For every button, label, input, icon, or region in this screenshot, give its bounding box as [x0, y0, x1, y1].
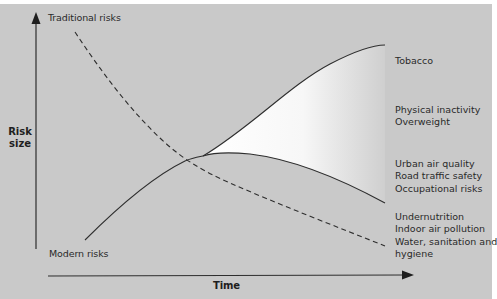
y-axis-label: Risk size — [4, 126, 36, 150]
label-road-traffic-safety: Road traffic safety — [395, 170, 482, 182]
label-physical-inactivity: Physical inactivity — [395, 104, 480, 116]
y-axis-arrow-icon — [32, 12, 41, 24]
label-urban-air-quality: Urban air quality — [395, 158, 482, 170]
label-group-tobacco: Tobacco — [395, 55, 433, 67]
x-axis-label: Time — [213, 280, 240, 292]
label-group-urban: Urban air quality Road traffic safety Oc… — [395, 158, 482, 195]
modern-risks-curve — [85, 156, 203, 240]
label-occupational-risks: Occupational risks — [395, 183, 482, 195]
label-overweight: Overweight — [395, 116, 480, 128]
label-tobacco: Tobacco — [395, 55, 433, 67]
x-axis-arrow-icon — [402, 271, 414, 280]
modern-risks-label: Modern risks — [49, 248, 108, 260]
label-water-sanitation: Water, sanitation and — [395, 236, 497, 248]
traditional-risks-label: Traditional risks — [48, 12, 121, 24]
label-group-physical: Physical inactivity Overweight — [395, 104, 480, 129]
label-hygiene: hygiene — [395, 248, 497, 260]
y-axis-label-line2: size — [4, 138, 36, 150]
label-group-traditional: Undernutrition Indoor air pollution Wate… — [395, 211, 497, 260]
label-indoor-air-pollution: Indoor air pollution — [395, 223, 497, 235]
y-axis-label-line1: Risk — [4, 126, 36, 138]
x-axis — [48, 275, 404, 276]
modern-risk-divergence-fill — [203, 45, 385, 203]
label-undernutrition: Undernutrition — [395, 211, 497, 223]
